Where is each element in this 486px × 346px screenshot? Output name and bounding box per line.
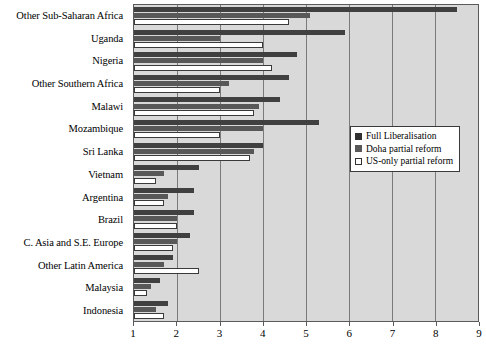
bar (134, 42, 263, 48)
bar (134, 7, 457, 12)
axis-tick (306, 322, 307, 326)
axis-tick (220, 322, 221, 326)
bar (134, 278, 160, 283)
category-label: Argentina (0, 186, 128, 209)
bar (134, 210, 194, 215)
category-label: Other Southern Africa (0, 72, 128, 95)
bar-group (134, 231, 478, 254)
bar-chart: Other Sub-Saharan AfricaUgandaNigeriaOth… (0, 0, 486, 346)
legend-swatch-full-liberalisation-icon (355, 133, 362, 140)
bar (134, 188, 194, 193)
bar (134, 97, 280, 102)
axis-tick-label: 6 (347, 327, 353, 339)
bar (134, 65, 272, 71)
category-label: Indonesia (0, 299, 128, 322)
gridline (478, 5, 479, 321)
category-label: Nigeria (0, 49, 128, 72)
bar-group (134, 28, 478, 51)
axis-tick (436, 322, 437, 326)
bar (134, 268, 199, 274)
bar (134, 216, 177, 221)
axis-tick (176, 322, 177, 326)
bar (134, 149, 254, 154)
bar (134, 52, 297, 57)
legend-item: Doha partial reform (355, 143, 453, 156)
bar (134, 143, 263, 148)
axis-tick-label: 8 (433, 327, 439, 339)
category-label: Other Sub-Saharan Africa (0, 4, 128, 27)
category-label: C. Asia and S.E. Europe (0, 231, 128, 254)
bar (134, 307, 156, 312)
bar (134, 104, 259, 109)
bar (134, 178, 156, 184)
axis-tick (479, 322, 480, 326)
bar (134, 132, 220, 138)
bar (134, 239, 177, 244)
bar (134, 284, 151, 289)
category-label: Vietnam (0, 163, 128, 186)
bar (134, 290, 147, 296)
legend-item: Full Liberalisation (355, 130, 453, 143)
bar-group (134, 50, 478, 73)
bar (134, 200, 164, 206)
bar (134, 262, 164, 267)
category-label: Uganda (0, 27, 128, 50)
bar (134, 223, 177, 229)
bar (134, 58, 263, 63)
bar (134, 301, 168, 306)
bar (134, 165, 199, 170)
bar (134, 126, 263, 131)
axis-tick-label: 9 (476, 327, 482, 339)
bar (134, 110, 254, 116)
bar (134, 13, 310, 18)
axis-tick (349, 322, 350, 326)
legend-label: Full Liberalisation (366, 130, 436, 143)
bar-group (134, 5, 478, 28)
chart-legend: Full Liberalisation Doha partial reform … (350, 126, 460, 172)
category-axis-labels: Other Sub-Saharan AfricaUgandaNigeriaOth… (0, 4, 128, 322)
category-label: Malaysia (0, 277, 128, 300)
bar (134, 87, 220, 93)
bar-group (134, 95, 478, 118)
bar (134, 255, 173, 260)
category-label: Malawi (0, 95, 128, 118)
bar (134, 171, 164, 176)
legend-label: Doha partial reform (366, 143, 441, 156)
bar-group (134, 208, 478, 231)
category-label: Other Latin America (0, 254, 128, 277)
axis-tick (393, 322, 394, 326)
bar-group (134, 299, 478, 322)
bar (134, 30, 345, 35)
legend-label: US-only partial reform (366, 155, 453, 168)
bar-group (134, 253, 478, 276)
category-label: Sri Lanka (0, 140, 128, 163)
category-label: Brazil (0, 208, 128, 231)
legend-item: US-only partial reform (355, 155, 453, 168)
bar (134, 19, 289, 25)
axis-tick-label: 5 (303, 327, 309, 339)
bar (134, 36, 220, 41)
bar (134, 155, 250, 161)
bar (134, 120, 319, 125)
axis-tick-label: 1 (130, 327, 136, 339)
bar (134, 75, 289, 80)
axis-tick (263, 322, 264, 326)
bar (134, 245, 173, 251)
bar (134, 81, 229, 86)
axis-tick-label: 3 (217, 327, 223, 339)
category-label: Mozambique (0, 118, 128, 141)
bar-group (134, 276, 478, 299)
legend-swatch-us-only-icon (355, 158, 362, 165)
bar (134, 194, 168, 199)
legend-swatch-doha-icon (355, 145, 362, 152)
bar-group (134, 73, 478, 96)
axis-tick-label: 2 (174, 327, 180, 339)
bar-group (134, 186, 478, 209)
bar (134, 233, 190, 238)
axis-tick (133, 322, 134, 326)
axis-tick-label: 7 (390, 327, 396, 339)
value-axis: 123456789 (133, 322, 479, 346)
axis-tick-label: 4 (260, 327, 266, 339)
bar (134, 313, 164, 319)
